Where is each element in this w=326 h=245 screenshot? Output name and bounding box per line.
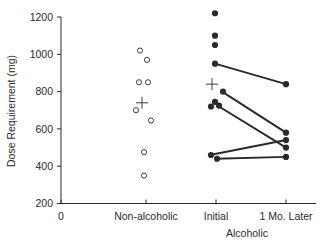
filled-circle-point — [212, 42, 218, 48]
paired-line — [216, 157, 286, 159]
y-tick-label: 200 — [35, 197, 53, 209]
open-circle-point — [137, 48, 142, 53]
y-tick-label: 1000 — [30, 48, 54, 60]
paired-lines — [210, 64, 286, 159]
filled-circle-point — [283, 81, 289, 87]
open-circle-point — [144, 57, 149, 62]
filled-circle-point — [212, 10, 218, 16]
x-tick-label: 1 Mo. Later — [259, 210, 313, 222]
x-tick-label: 0 — [58, 210, 64, 222]
filled-circle-point — [283, 137, 289, 143]
filled-circle-point — [212, 61, 218, 67]
filled-circle-point — [208, 152, 214, 158]
filled-circle-point — [283, 130, 289, 136]
filled-circle-point — [214, 156, 220, 162]
open-circle-point — [136, 80, 141, 85]
open-circle-point — [148, 118, 153, 123]
x-tick-label: Initial — [204, 210, 229, 222]
filled-circle-point — [283, 154, 289, 160]
y-axis-title: Dose Requirement (mg) — [5, 55, 17, 167]
filled-circle-point — [220, 89, 226, 95]
paired-line — [222, 92, 286, 133]
paired-line — [215, 64, 286, 85]
open-circle-point — [141, 150, 146, 155]
open-circle-point — [145, 80, 150, 85]
y-tick-label: 800 — [35, 85, 53, 97]
filled-circle-point — [283, 144, 289, 150]
data-points — [133, 10, 289, 178]
y-tick-label: 400 — [35, 160, 53, 172]
x-axis-group-title: Alcoholic — [226, 227, 268, 239]
y-axis: 20040060080010001200 Dose Requirement (m… — [5, 11, 61, 210]
x-tick-label: Non-alcoholic — [114, 210, 178, 222]
x-axis: 0Non-alcoholicInitial1 Mo. Later Alcohol… — [58, 200, 316, 240]
filled-circle-point — [216, 102, 222, 108]
dose-requirement-chart: 20040060080010001200 Dose Requirement (m… — [0, 0, 326, 245]
open-circle-point — [141, 173, 146, 178]
y-tick-label: 1200 — [30, 11, 54, 23]
open-circle-point — [133, 108, 138, 113]
filled-circle-point — [212, 33, 218, 39]
paired-line — [210, 140, 286, 155]
y-tick-label: 600 — [35, 123, 53, 135]
filled-circle-point — [208, 103, 214, 109]
